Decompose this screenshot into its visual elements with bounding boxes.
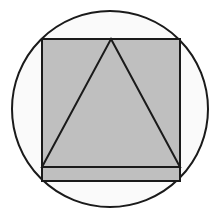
figure-canvas bbox=[0, 0, 220, 221]
geometric-figure bbox=[0, 0, 220, 221]
bottom-band-shape bbox=[42, 167, 180, 181]
